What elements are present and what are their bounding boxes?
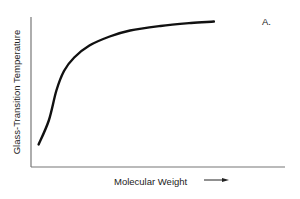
x-axis-label: Molecular Weight — [114, 176, 187, 187]
y-axis-label: Glass-Transition Temperature — [11, 30, 22, 155]
x-axis-arrow-icon — [204, 178, 229, 182]
data-line — [39, 22, 214, 145]
panel-label: A. — [262, 16, 271, 27]
line-chart — [0, 0, 300, 199]
